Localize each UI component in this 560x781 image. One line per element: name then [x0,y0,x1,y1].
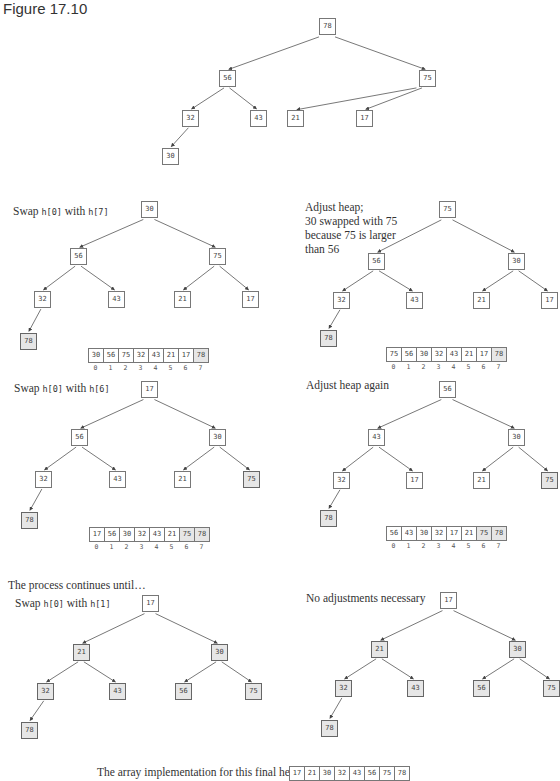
caption-text: Swap [14,382,42,394]
tree-edge-arrow [520,659,550,679]
array-cell: 17 [446,526,462,541]
tree-edge-arrow [519,447,548,471]
tree-edge-arrow [156,614,218,643]
code-text: h[0] [42,384,62,394]
array-index: 7 [491,542,506,550]
heap-node: 78 [20,333,37,350]
heap-node: 17 [356,110,373,127]
array-index: 6 [476,363,491,371]
heap-node: 56 [70,248,87,265]
code-text: h[1] [90,599,110,609]
final-array-label: The array implementation for this final … [97,765,314,779]
tree-edge-arrow [454,611,516,640]
array-index: 1 [103,364,118,372]
array-cell: 30 [416,526,432,541]
tree-edge-arrow [330,698,342,718]
tree-edge-arrow [335,37,425,69]
array-cell: 30 [319,766,335,781]
array-cell: 78 [194,527,210,542]
array-index-row: 01234567 [88,364,208,372]
tree-edge-arrow [184,266,215,290]
tree-edge-arrow [220,266,249,290]
tree-edge-arrow [47,662,78,682]
array-cell: 32 [134,527,150,542]
array-cell: 43 [349,766,365,781]
tree-edge-arrow [329,490,340,509]
tree-edge-arrow [83,614,145,643]
tree-edge-arrow [379,447,412,471]
array-cell: 32 [334,766,350,781]
array-index: 1 [401,542,416,550]
heap-node: 21 [73,644,90,661]
array-index: 0 [386,363,401,371]
array-index-row: 01234567 [386,542,506,550]
array-cell: 32 [431,347,447,362]
caption-text: with [62,205,88,217]
heap-node: 32 [333,292,350,309]
heap-array: 7556303243211778 [387,347,507,362]
heap-node: 75 [439,201,456,218]
heap-node: 43 [368,429,385,446]
caption-text: with [64,597,90,609]
tree-edge-arrow [81,266,114,290]
heap-node: 30 [209,429,226,446]
array-cell: 21 [304,766,320,781]
array-index: 5 [461,363,476,371]
heap-node: 43 [406,292,423,309]
heap-node: 30 [509,641,526,658]
array-index: 3 [133,364,148,372]
caption-text: No adjustments necessary [306,592,425,604]
heap-node: 21 [473,292,490,309]
tree-edge-arrow [222,662,252,682]
tree-edge-arrow [382,659,413,679]
heap-node: 17 [141,381,158,398]
tree-edge-arrow [297,88,416,110]
tree-edge-arrow [184,447,215,470]
array-index: 1 [104,543,119,551]
array-index: 2 [119,543,134,551]
heap-node: 75 [245,683,262,700]
array-index: 2 [416,363,431,371]
heap-node: 56 [473,680,490,697]
tree-edge-arrow [45,447,76,470]
tree-edge-arrow [329,310,340,329]
heap-array: 5643303217217578 [387,526,507,541]
array-cell: 56 [386,526,402,541]
array-index: 3 [431,542,446,550]
array-cell: 17 [476,347,492,362]
heap-node: 43 [109,471,126,488]
caption-text: Swap [13,205,41,217]
array-cell: 75 [379,766,395,781]
tree-edge-arrow [220,447,250,470]
array-index: 0 [89,543,104,551]
array-cell: 56 [401,347,417,362]
heap-node: 17 [541,292,558,309]
array-cell: 21 [461,526,477,541]
array-index: 6 [178,364,193,372]
tree-edge-arrow [345,659,376,679]
heap-node: 43 [108,291,125,308]
heap-node: 17 [142,595,159,612]
array-index: 2 [416,542,431,550]
tree-edge-arrow [171,128,188,147]
array-cell: 75 [386,347,402,362]
panel-caption: No adjustments necessary [306,591,425,605]
caption-text: The process continues until… [8,579,146,591]
array-cell: 56 [364,766,380,781]
code-text: h[7] [88,207,108,217]
heap-node: 78 [321,720,338,737]
array-cell: 17 [89,527,105,542]
array-cell: 21 [164,527,180,542]
array-cell: 32 [431,526,447,541]
tree-edge-arrow [30,489,42,510]
array-cell: 75 [476,526,492,541]
array-index: 7 [491,363,506,371]
array-index: 7 [194,543,209,551]
array-index: 6 [476,542,491,550]
caption-text: 30 swapped with 75 [305,215,397,227]
tree-edge-arrow [378,400,441,429]
heap-node: 78 [21,512,38,529]
tree-edge-arrow [453,400,515,429]
array-index: 4 [149,543,164,551]
panel-caption: Swap h[0] with h[7] [13,204,109,219]
